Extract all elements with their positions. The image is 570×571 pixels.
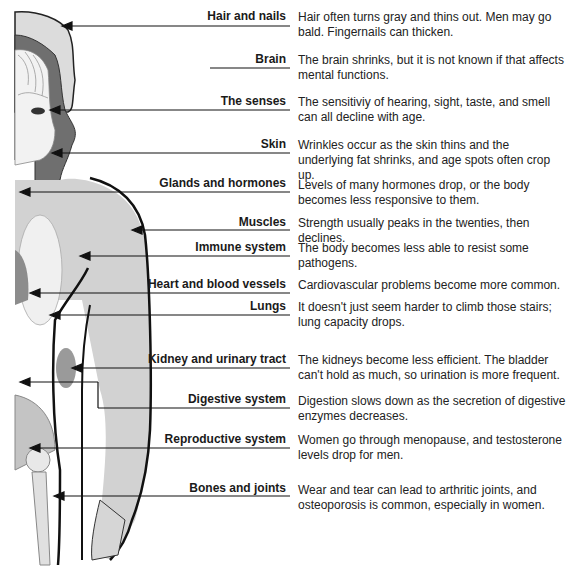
label-digestive-system: Digestive system [188, 392, 286, 406]
desc-reproductive-system: Women go through menopause, and testoste… [298, 433, 566, 463]
label-brain: Brain [255, 52, 286, 66]
desc-hair-and-nails: Hair often turns gray and thins out. Men… [298, 10, 566, 40]
desc-the-senses: The sensitiviy of hearing, sight, taste,… [298, 95, 566, 125]
eye-shape [31, 108, 45, 115]
desc-brain: The brain shrinks, but it is not known i… [298, 53, 566, 83]
desc-immune-system: The body becomes less able to resist som… [298, 241, 566, 271]
label-lungs: Lungs [250, 299, 286, 313]
inner-arm-outline [82, 305, 90, 560]
label-the-senses: The senses [221, 94, 286, 108]
desc-heart-and-blood-vessels: Cardiovascular problems become more comm… [298, 278, 566, 293]
label-immune-system: Immune system [195, 240, 286, 254]
femur-shape [32, 472, 50, 565]
label-glands-and-hormones: Glands and hormones [159, 176, 286, 190]
desc-lungs: It doesn't just seem harder to climb tho… [298, 300, 566, 330]
label-bones-and-joints: Bones and joints [189, 481, 286, 495]
desc-glands-and-hormones: Levels of many hormones drop, or the bod… [298, 178, 566, 208]
label-reproductive-system: Reproductive system [165, 432, 286, 446]
desc-skin: Wrinkles occur as the skin thins and the… [298, 138, 566, 183]
desc-kidney-and-urinary-tract: The kidneys become less efficient. The b… [298, 353, 566, 383]
label-hair-and-nails: Hair and nails [207, 9, 286, 23]
label-heart-and-blood-vessels: Heart and blood vessels [148, 277, 286, 291]
label-kidney-and-urinary-tract: Kidney and urinary tract [148, 352, 286, 366]
desc-digestive-system: Digestion slows down as the secretion of… [298, 394, 566, 424]
label-skin: Skin [261, 137, 286, 151]
desc-bones-and-joints: Wear and tear can lead to arthritic join… [298, 483, 566, 513]
label-muscles: Muscles [239, 215, 286, 229]
